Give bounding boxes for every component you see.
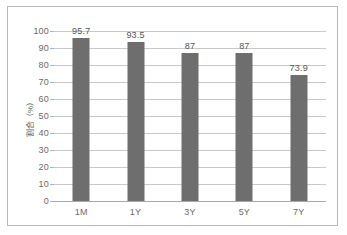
x-axis-tick-label: 1Y bbox=[130, 207, 141, 217]
y-axis-tick-label: 30 bbox=[39, 145, 49, 155]
y-axis-tick-label: 0 bbox=[44, 196, 49, 206]
y-axis-tick-label: 20 bbox=[39, 162, 49, 172]
bar[interactable] bbox=[127, 42, 144, 201]
x-axis-tick-label: 1M bbox=[75, 207, 88, 217]
y-axis-title: 割合（%） bbox=[22, 7, 38, 227]
bar-value-label: 87 bbox=[239, 41, 249, 51]
bar-group: 95.71M bbox=[54, 31, 108, 201]
y-axis-tick-label: 80 bbox=[39, 60, 49, 70]
x-axis-tick-label: 3Y bbox=[184, 207, 195, 217]
y-axis-tick-label: 50 bbox=[39, 111, 49, 121]
bar[interactable] bbox=[290, 75, 307, 201]
plot-area: 1009080706050403020100 95.71M93.51Y873Y8… bbox=[54, 31, 326, 201]
bar-value-label: 95.7 bbox=[72, 26, 90, 36]
bar-series: 95.71M93.51Y873Y875Y73.97Y bbox=[54, 31, 326, 201]
bar-value-label: 87 bbox=[185, 41, 195, 51]
y-axis-title-text: 割合（%） bbox=[25, 97, 36, 136]
bar-value-label: 73.9 bbox=[290, 63, 308, 73]
bar[interactable] bbox=[73, 38, 90, 201]
y-axis-tick-label: 90 bbox=[39, 43, 49, 53]
y-axis-tickmark bbox=[50, 201, 54, 202]
bar-group: 873Y bbox=[163, 31, 217, 201]
y-axis-tick-label: 40 bbox=[39, 128, 49, 138]
bar[interactable] bbox=[181, 53, 198, 201]
bar[interactable] bbox=[236, 53, 253, 201]
bar-group: 73.97Y bbox=[272, 31, 326, 201]
y-axis-tick-label: 70 bbox=[39, 77, 49, 87]
bar-value-label: 93.5 bbox=[126, 30, 144, 40]
gridline bbox=[54, 201, 326, 202]
x-axis-tick-label: 7Y bbox=[293, 207, 304, 217]
y-axis-tick-label: 100 bbox=[33, 26, 49, 36]
x-axis-tick-label: 5Y bbox=[239, 207, 250, 217]
y-axis-tick-label: 10 bbox=[39, 179, 49, 189]
bar-group: 875Y bbox=[217, 31, 271, 201]
chart-frame: 割合（%） 1009080706050403020100 95.71M93.51… bbox=[7, 6, 338, 226]
bar-group: 93.51Y bbox=[108, 31, 162, 201]
y-axis-tick-label: 60 bbox=[39, 94, 49, 104]
